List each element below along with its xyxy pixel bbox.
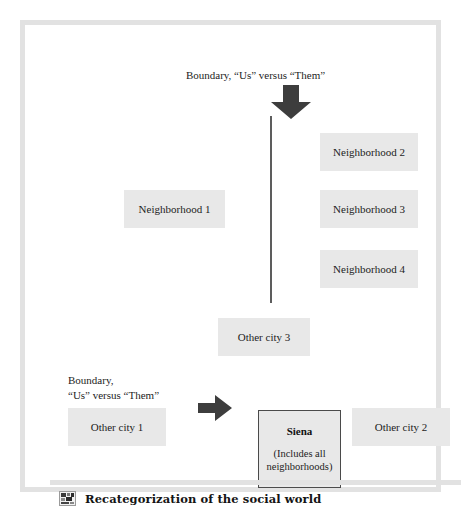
box-other-city-3-label: Other city 3: [238, 331, 291, 343]
boundary-divider-line: [270, 116, 272, 303]
thumbnail-icon: [59, 491, 76, 506]
box-other-city-2: Other city 2: [352, 408, 450, 446]
box-neighborhood-1-label: Neighborhood 1: [139, 203, 211, 215]
top-boundary-label: Boundary, “Us” versus “Them”: [50, 68, 461, 83]
figure-caption-panel: Recategorization of the social world: [50, 480, 461, 508]
box-siena-subtitle: (Includes all neighborhoods): [262, 448, 337, 474]
box-neighborhood-3: Neighborhood 3: [320, 190, 418, 228]
box-siena-title: Siena: [287, 425, 313, 437]
figure-caption-text: Recategorization of the social world: [85, 492, 321, 506]
down-arrow-icon: [255, 85, 327, 119]
box-other-city-1: Other city 1: [68, 408, 166, 446]
figure-frame: Boundary, “Us” versus “Them” Boundary, “…: [20, 20, 441, 492]
left-boundary-label: Boundary, “Us” versus “Them”: [68, 373, 159, 403]
box-neighborhood-1: Neighborhood 1: [124, 190, 225, 228]
box-other-city-3: Other city 3: [218, 318, 310, 356]
left-boundary-label-line1: Boundary,: [68, 373, 159, 388]
box-other-city-1-label: Other city 1: [91, 421, 144, 433]
left-boundary-label-line2: “Us” versus “Them”: [68, 388, 159, 403]
diagram-area: Boundary, “Us” versus “Them” Boundary, “…: [50, 50, 461, 475]
box-siena: Siena (Includes all neighborhoods): [258, 410, 341, 488]
box-neighborhood-3-label: Neighborhood 3: [333, 203, 405, 215]
box-neighborhood-2: Neighborhood 2: [320, 133, 418, 171]
right-arrow-icon: [198, 395, 232, 421]
box-neighborhood-4-label: Neighborhood 4: [333, 263, 405, 275]
box-neighborhood-2-label: Neighborhood 2: [333, 146, 405, 158]
box-neighborhood-4: Neighborhood 4: [320, 250, 418, 288]
box-other-city-2-label: Other city 2: [375, 421, 428, 433]
